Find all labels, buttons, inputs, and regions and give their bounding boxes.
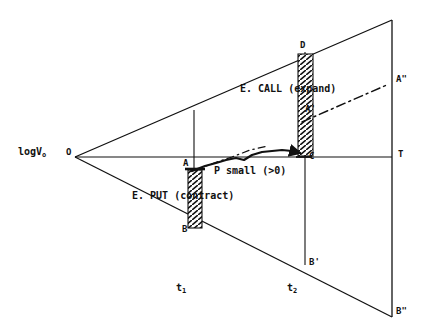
axis-tick-label-t1: t1 <box>176 283 186 295</box>
annotation-put-contract: E. PUT (contract) <box>132 191 234 201</box>
axis-tick-label-t2: t2 <box>287 283 297 295</box>
point-label-A-double-prime: A" <box>396 75 407 84</box>
cone-upper-boundary <box>75 20 392 157</box>
point-label-T: T <box>398 150 403 159</box>
annotation-path-p-small: P small (>0) <box>214 166 286 176</box>
annotation-call-expand: E. CALL (expand) <box>240 84 336 94</box>
point-label-D: D <box>300 41 305 50</box>
point-label-B-double-prime: B" <box>396 307 407 316</box>
point-label-O: O <box>66 148 71 157</box>
option-cone-diagram: logVo O A B C D A' A" B' B" T E. CALL (e… <box>0 0 426 328</box>
point-label-A-prime: A' <box>305 105 316 114</box>
y-axis-label-subscript: o <box>42 151 46 159</box>
y-axis-label: logVo <box>18 147 46 159</box>
point-label-B: B <box>182 225 187 234</box>
y-axis-label-text: logV <box>18 146 42 157</box>
point-label-A: A <box>183 159 188 168</box>
point-label-B-prime: B' <box>309 258 320 267</box>
axis-tick-label-t2-subscript: 2 <box>293 287 297 295</box>
point-label-C: C <box>309 152 314 161</box>
cone-lower-boundary <box>75 157 392 317</box>
axis-tick-label-t1-subscript: 1 <box>182 287 186 295</box>
diagram-canvas <box>0 0 426 328</box>
